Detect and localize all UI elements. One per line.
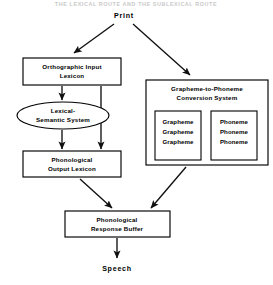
phoneme-item-3: Phoneme xyxy=(220,138,249,145)
edge-print-to-orthographic-input-lexicon xyxy=(74,24,114,53)
grapheme-item-1: Grapheme xyxy=(163,118,194,125)
orthographic-input-lexicon-line2: Lexicon xyxy=(60,72,85,79)
phoneme-item-1: Phoneme xyxy=(220,118,249,125)
clipped-header-text: THE LEXICAL ROUTE AND THE SUBLEXICAL ROU… xyxy=(55,1,217,7)
input-label-print: Print xyxy=(114,12,134,20)
phonological-response-buffer-line2: Response Buffer xyxy=(91,225,144,232)
gpc-system-line2: Conversion System xyxy=(177,94,238,101)
node-grapheme-to-phoneme-conversion-system[interactable]: Grapheme-to-Phoneme Conversion System Gr… xyxy=(146,80,268,165)
phonological-response-buffer-line1: Phonological xyxy=(96,216,137,223)
node-phonological-response-buffer[interactable]: Phonological Response Buffer xyxy=(65,211,170,237)
phoneme-list[interactable]: Phoneme Phoneme Phoneme xyxy=(211,111,257,160)
orthographic-input-lexicon-line1: Orthographic Input xyxy=(42,63,101,70)
grapheme-item-2: Grapheme xyxy=(163,128,194,135)
grapheme-item-3: Grapheme xyxy=(163,138,194,145)
dual-route-reading-diagram: THE LEXICAL ROUTE AND THE SUBLEXICAL ROU… xyxy=(0,0,273,285)
gpc-system-line1: Grapheme-to-Phoneme xyxy=(171,85,243,92)
grapheme-list[interactable]: Grapheme Grapheme Grapheme xyxy=(155,111,201,160)
diagram-canvas: THE LEXICAL ROUTE AND THE SUBLEXICAL ROU… xyxy=(0,0,273,285)
phonological-output-lexicon-line1: Phonological xyxy=(51,156,92,163)
phoneme-item-2: Phoneme xyxy=(220,128,249,135)
edge-gpc-to-response-buffer xyxy=(151,167,186,208)
lexical-semantic-system-line2: Semantic System xyxy=(36,116,90,123)
node-orthographic-input-lexicon[interactable]: Orthographic Input Lexicon xyxy=(23,58,121,85)
node-phonological-output-lexicon[interactable]: Phonological Output Lexicon xyxy=(23,151,121,177)
lexical-semantic-system-line1: Lexical- xyxy=(51,107,75,114)
phonological-output-lexicon-line2: Output Lexicon xyxy=(48,165,96,172)
edge-pol-to-response-buffer xyxy=(80,179,112,208)
edge-print-to-gpc-system xyxy=(133,24,190,75)
output-label-speech: Speech xyxy=(102,265,132,273)
node-lexical-semantic-system[interactable]: Lexical- Semantic System xyxy=(17,102,109,129)
